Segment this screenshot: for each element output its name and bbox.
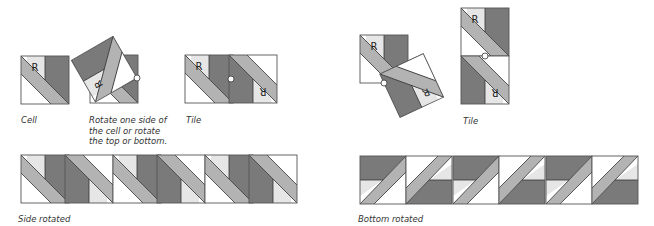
caption-tile-right: Tile — [463, 116, 478, 127]
quilt-diagram: R — [0, 0, 654, 226]
caption-rotate-line-3: the top or bottom. — [89, 136, 167, 147]
side-rotated-strip — [21, 155, 297, 203]
caption-rotate-line-2: the cell or rotate — [89, 126, 167, 137]
pivot-point-icon — [228, 76, 234, 82]
pivot-point-icon — [134, 75, 140, 81]
caption-bottom-rotated: Bottom rotated — [358, 214, 423, 225]
caption-rotate: Rotate one side of the cell or rotate th… — [89, 115, 167, 147]
rotate-figure — [71, 36, 140, 103]
bottom-rotate-figure — [360, 35, 444, 117]
pivot-point-icon — [381, 80, 387, 86]
caption-cell: Cell — [21, 115, 37, 126]
tile-horizontal — [185, 55, 277, 103]
tile-vertical — [461, 8, 509, 104]
caption-tile-left: Tile — [186, 115, 201, 126]
pivot-point-icon — [482, 53, 488, 59]
caption-rotate-line-1: Rotate one side of — [89, 115, 167, 126]
bottom-rotated-strip — [360, 156, 638, 204]
caption-side-rotated: Side rotated — [18, 214, 70, 225]
cell-figure — [21, 56, 69, 104]
